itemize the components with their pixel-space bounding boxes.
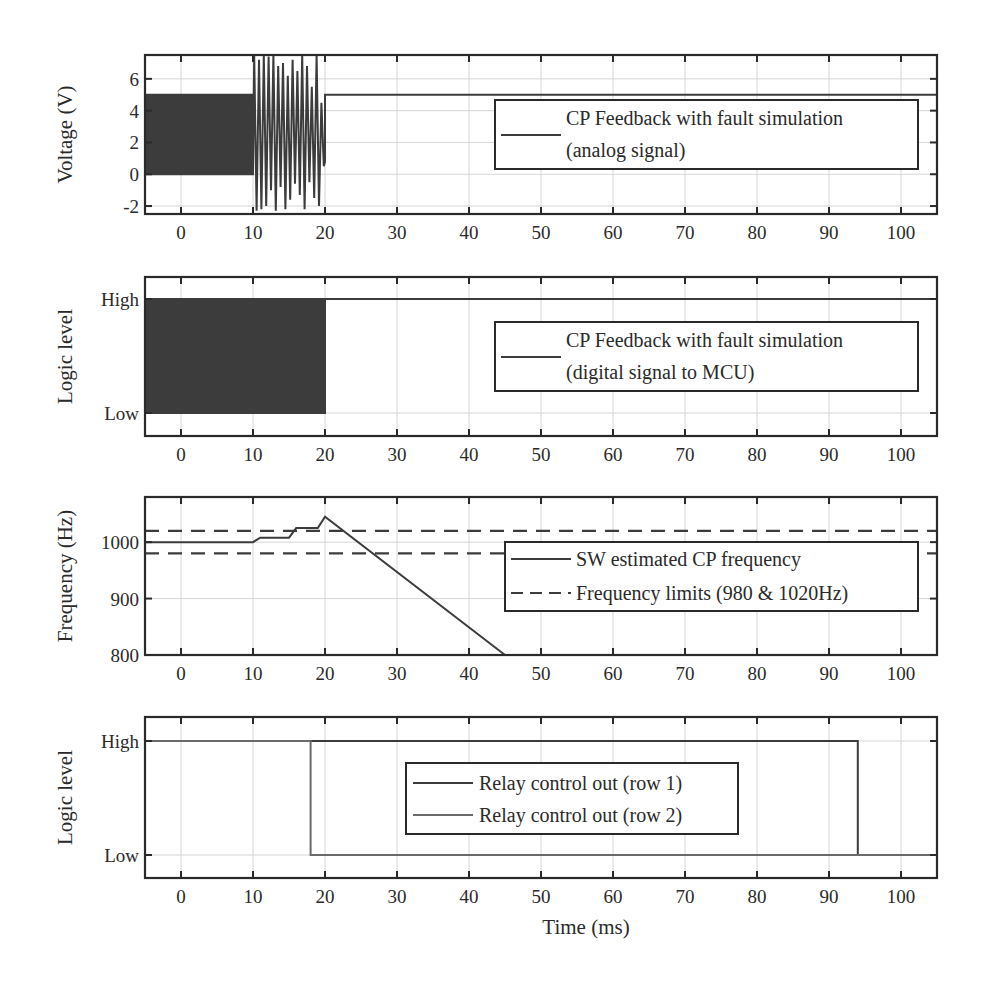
x-tick-label: 40 [460, 886, 479, 907]
chart-relay: 0102030405060708090100HighLowLogic level… [53, 717, 937, 939]
y-tick-label: Low [104, 403, 139, 424]
y-tick-label: 800 [111, 645, 140, 666]
x-tick-label: 30 [388, 444, 407, 465]
chart-frequency: 01020304050607080901008009001000Frequenc… [53, 497, 937, 684]
x-tick-label: 40 [460, 663, 479, 684]
x-tick-label: 100 [887, 444, 916, 465]
x-tick-label: 10 [244, 663, 263, 684]
svg-text:CP Feedback with fault simulat: CP Feedback with fault simulation [566, 107, 843, 129]
x-tick-label: 10 [244, 444, 263, 465]
y-tick-label: 2 [130, 132, 140, 153]
x-tick-label: 0 [176, 222, 186, 243]
x-tick-label: 80 [748, 222, 767, 243]
x-tick-label: 30 [388, 222, 407, 243]
x-tick-label: 100 [887, 663, 916, 684]
x-tick-label: 30 [388, 663, 407, 684]
x-tick-label: 60 [604, 886, 623, 907]
figure: 0102030405060708090100-20246Voltage (V)C… [0, 0, 987, 989]
svg-text:SW estimated CP frequency: SW estimated CP frequency [576, 548, 801, 571]
x-tick-label: 90 [820, 222, 839, 243]
x-tick-label: 90 [820, 886, 839, 907]
y-axis-label: Logic level [53, 309, 77, 404]
x-tick-label: 80 [748, 663, 767, 684]
x-tick-label: 50 [532, 663, 551, 684]
svg-text:Frequency limits (980 & 1020Hz: Frequency limits (980 & 1020Hz) [576, 582, 848, 605]
x-tick-label: 100 [887, 886, 916, 907]
x-tick-label: 40 [460, 222, 479, 243]
x-tick-label: 0 [176, 663, 186, 684]
y-tick-label: Low [104, 845, 139, 866]
x-tick-label: 60 [604, 222, 623, 243]
x-tick-label: 60 [604, 444, 623, 465]
x-tick-label: 30 [388, 886, 407, 907]
x-tick-label: 70 [676, 444, 695, 465]
legend: Relay control out (row 1)Relay control o… [406, 763, 738, 834]
legend: CP Feedback with fault simulation(digita… [495, 322, 918, 391]
x-tick-label: 10 [244, 222, 263, 243]
svg-text:CP Feedback with fault simulat: CP Feedback with fault simulation [566, 329, 843, 351]
legend: CP Feedback with fault simulation(analog… [495, 100, 918, 169]
x-tick-label: 20 [316, 444, 335, 465]
x-tick-label: 20 [316, 886, 335, 907]
x-tick-label: 60 [604, 663, 623, 684]
y-axis-label: Logic level [53, 750, 77, 845]
x-tick-label: 50 [532, 886, 551, 907]
x-tick-label: 70 [676, 222, 695, 243]
x-tick-label: 10 [244, 886, 263, 907]
y-axis-label: Frequency (Hz) [53, 510, 77, 642]
y-tick-label: 0 [130, 164, 140, 185]
x-tick-label: 20 [316, 663, 335, 684]
x-tick-label: 70 [676, 663, 695, 684]
x-tick-label: 70 [676, 886, 695, 907]
y-tick-label: 900 [111, 589, 140, 610]
x-tick-label: 90 [820, 444, 839, 465]
x-tick-label: 0 [176, 886, 186, 907]
y-tick-label: -2 [123, 196, 139, 217]
y-tick-label: 1000 [101, 532, 139, 553]
y-tick-label: 4 [130, 101, 140, 122]
x-tick-label: 80 [748, 444, 767, 465]
y-tick-label: High [101, 731, 140, 752]
x-tick-label: 80 [748, 886, 767, 907]
legend: SW estimated CP frequencyFrequency limit… [505, 542, 918, 611]
x-tick-label: 100 [887, 222, 916, 243]
x-tick-label: 90 [820, 663, 839, 684]
chart-voltage: 0102030405060708090100-20246Voltage (V)C… [53, 55, 937, 243]
chart-digital: 0102030405060708090100HighLowLogic level… [53, 277, 937, 465]
y-tick-label: High [101, 289, 140, 310]
svg-text:Relay control out (row 2): Relay control out (row 2) [479, 804, 682, 827]
y-tick-label: 6 [130, 69, 140, 90]
svg-text:Relay control out (row 1): Relay control out (row 1) [479, 772, 682, 795]
x-tick-label: 20 [316, 222, 335, 243]
svg-text:(analog signal): (analog signal) [566, 139, 685, 162]
y-axis-label: Voltage (V) [53, 85, 77, 183]
x-tick-label: 40 [460, 444, 479, 465]
svg-text:(digital signal to MCU): (digital signal to MCU) [566, 361, 754, 384]
x-tick-label: 0 [176, 444, 186, 465]
x-axis-label: Time (ms) [542, 915, 629, 939]
x-tick-label: 50 [532, 444, 551, 465]
x-tick-label: 50 [532, 222, 551, 243]
